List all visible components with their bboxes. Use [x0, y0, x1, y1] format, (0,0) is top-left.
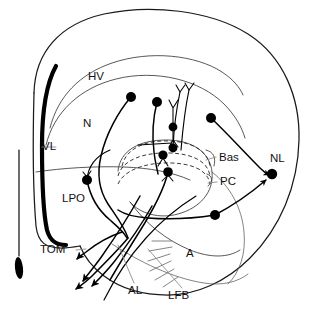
label-N: N	[83, 117, 91, 129]
internal-laminae	[36, 56, 248, 284]
A-inner-contour	[212, 172, 244, 284]
archistriatum-hatching	[148, 241, 178, 287]
label-PC: PC	[220, 175, 236, 187]
leader-LFB	[148, 249, 182, 288]
axon-n8	[211, 118, 269, 175]
label-TOM: TOM	[40, 243, 65, 255]
leader-AL	[118, 245, 134, 283]
label-VL: VL	[42, 140, 57, 152]
soma-n2	[152, 97, 162, 107]
label-NL: NL	[270, 152, 285, 164]
label-A: A	[186, 247, 194, 259]
VL-terminal-blob	[14, 257, 24, 280]
soma-n10	[210, 210, 220, 220]
soma-n9-NL	[267, 169, 277, 179]
soma-n5	[158, 150, 167, 159]
label-AL: AL	[128, 284, 143, 296]
soma-n6	[163, 167, 173, 177]
axon-n7	[87, 180, 127, 238]
ascending-fibre-right	[181, 90, 189, 150]
leader-TOM	[76, 249, 86, 250]
figure-root: HV N VL LPO TOM Bas PC NL A AL LFB	[0, 0, 311, 311]
N-lamina	[46, 75, 245, 145]
axon-n4	[173, 92, 180, 148]
label-LPO: LPO	[62, 192, 85, 204]
soma-n1	[126, 92, 136, 102]
brain-schematic-svg: HV N VL LPO TOM Bas PC NL A AL LFB	[0, 0, 311, 311]
dendrite-n4-top	[176, 85, 185, 92]
dendrite-fibre-right-top	[185, 83, 194, 90]
soma-n3	[169, 123, 178, 132]
soma-n8	[206, 113, 216, 123]
label-HV: HV	[88, 70, 104, 82]
label-Bas: Bas	[219, 151, 239, 163]
label-LFB: LFB	[168, 289, 189, 301]
archistriatum-lower-lamina	[112, 244, 248, 284]
neuron-network	[76, 83, 277, 300]
soma-n4	[169, 144, 178, 153]
